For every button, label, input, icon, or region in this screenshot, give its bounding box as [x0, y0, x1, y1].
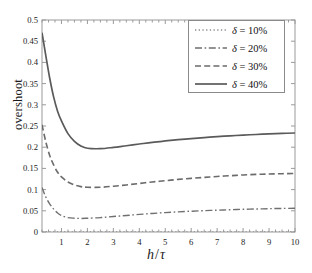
y-tick-label: 0.5	[6, 15, 38, 25]
y-tick-label: 0.05	[6, 206, 38, 216]
figure: 00.050.10.150.20.250.30.350.40.450.5 123…	[0, 0, 312, 273]
x-tick-label: 6	[189, 237, 193, 247]
y-axis-label: overshoot	[11, 65, 26, 145]
legend-label: δ = 40%	[232, 79, 267, 90]
x-tick-label: 5	[163, 237, 167, 247]
x-tick-label: 8	[241, 237, 245, 247]
x-tick-label: 9	[267, 237, 271, 247]
legend[interactable]: δ = 10%δ = 20%δ = 30%δ = 40%	[188, 20, 285, 93]
legend-line-sample	[194, 43, 228, 53]
legend-label: δ = 10%	[232, 25, 267, 36]
legend-delta-value: = 30%	[237, 61, 267, 72]
legend-delta-value: = 20%	[237, 43, 267, 54]
x-axis-label: h/τ	[0, 247, 312, 263]
legend-line-sample	[194, 25, 228, 35]
legend-item-30[interactable]: δ = 30%	[189, 57, 284, 75]
legend-label: δ = 20%	[232, 43, 267, 54]
x-axis-denominator: τ	[160, 247, 165, 262]
legend-delta-value: = 40%	[237, 79, 267, 90]
y-tick-label: 0.1	[6, 185, 38, 195]
y-tick-label: 0	[6, 227, 38, 237]
legend-item-10[interactable]: δ = 10%	[189, 21, 284, 39]
y-tick-label: 0.15	[6, 163, 38, 173]
legend-delta-value: = 10%	[237, 25, 267, 36]
x-tick-label: 3	[111, 237, 115, 247]
legend-item-40[interactable]: δ = 40%	[189, 75, 284, 93]
x-tick-label: 2	[85, 237, 89, 247]
x-tick-label: 10	[291, 237, 300, 247]
legend-label: δ = 30%	[232, 61, 267, 72]
legend-line-sample	[194, 61, 228, 71]
legend-line-sample	[194, 79, 228, 89]
x-tick-label: 1	[59, 237, 63, 247]
legend-item-20[interactable]: δ = 20%	[189, 39, 284, 57]
y-tick-label: 0.45	[6, 36, 38, 46]
x-tick-label: 4	[137, 237, 141, 247]
x-axis-numerator: h	[147, 247, 154, 262]
x-tick-label: 7	[215, 237, 219, 247]
